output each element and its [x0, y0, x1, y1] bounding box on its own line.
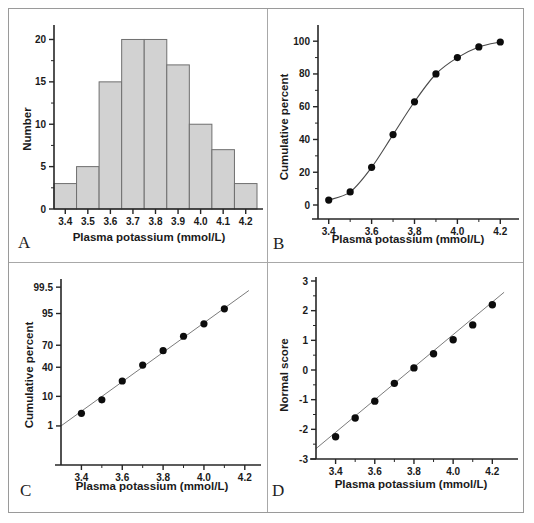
- y-tick-label: -3: [299, 454, 308, 465]
- x-tick-label: 4.2: [238, 472, 252, 483]
- bar: [54, 184, 77, 209]
- panel-d-svg: -3-2-101233.43.63.84.04.2 Normal score P…: [268, 263, 523, 512]
- y-tick-label: 40: [299, 134, 311, 145]
- panel-d-xlabel: Plasma potassium (mmol/L): [335, 478, 488, 490]
- panel-c-fitline: [61, 291, 249, 426]
- x-tick-label: 4.2: [493, 226, 507, 237]
- data-point: [391, 380, 398, 387]
- data-point: [351, 414, 358, 421]
- data-point: [497, 38, 504, 45]
- y-tick-label: 3: [302, 276, 308, 287]
- panel-letter-d: D: [272, 482, 284, 499]
- panel-c-xlabel: Plasma potassium (mmol/L): [76, 480, 229, 492]
- panel-b-xlabel: Plasma potassium (mmol/L): [332, 233, 485, 245]
- bar: [99, 82, 122, 209]
- data-point: [371, 397, 378, 404]
- bar: [234, 184, 257, 209]
- bar: [122, 39, 145, 209]
- y-tick-label: 20: [35, 34, 47, 45]
- panel-c-probability-plot: 11040709599.53.43.63.84.04.2 Cumulative …: [9, 263, 267, 512]
- x-tick-label: 4.2: [239, 216, 253, 227]
- panel-a-svg: 051015203.43.53.63.73.83.94.04.14.2 Numb…: [9, 9, 267, 262]
- bar: [189, 124, 212, 209]
- panel-b-curve: [329, 42, 501, 200]
- y-tick-label: 95: [42, 308, 54, 319]
- panel-d-plot-area: -3-2-101233.43.63.84.04.2: [299, 276, 518, 478]
- data-point: [78, 410, 85, 417]
- panel-letter-c: C: [20, 482, 31, 499]
- y-tick-label: -1: [299, 394, 308, 405]
- data-point: [325, 196, 332, 203]
- x-tick-label: 3.8: [149, 216, 163, 227]
- y-tick-label: 0: [304, 200, 310, 211]
- bar: [77, 167, 100, 209]
- panel-b-cumulative-curve: 0204060801003.43.63.84.04.2 Cumulative p…: [268, 9, 523, 262]
- data-point: [449, 336, 456, 343]
- bar: [167, 65, 190, 209]
- x-tick-label: 3.4: [58, 216, 72, 227]
- y-tick-label: 0: [302, 365, 308, 376]
- y-tick-label: 60: [299, 101, 311, 112]
- data-point: [200, 320, 207, 327]
- y-tick-label: 70: [42, 340, 54, 351]
- panel-a-xlabel: Plasma potassium (mmol/L): [73, 231, 226, 243]
- data-point: [160, 347, 167, 354]
- y-tick-label: 2: [302, 305, 308, 316]
- x-tick-label: 4.0: [194, 216, 208, 227]
- x-tick-label: 3.4: [329, 466, 343, 477]
- data-point: [98, 396, 105, 403]
- data-point: [221, 305, 228, 312]
- bar: [212, 150, 235, 209]
- data-point: [180, 333, 187, 340]
- data-point: [454, 54, 461, 61]
- x-tick-label: 3.8: [407, 466, 421, 477]
- panel-b-svg: 0204060801003.43.63.84.04.2 Cumulative p…: [268, 9, 523, 262]
- panel-d-fitline: [316, 292, 504, 448]
- data-point: [347, 188, 354, 195]
- y-tick-label: 5: [40, 161, 46, 172]
- data-point: [119, 377, 126, 384]
- panel-c-svg: 11040709599.53.43.63.84.04.2 Cumulative …: [9, 263, 267, 512]
- data-point: [139, 361, 146, 368]
- panel-letter-a: A: [18, 234, 30, 251]
- y-tick-label: 1: [47, 420, 53, 431]
- panel-a-histogram: 051015203.43.53.63.73.83.94.04.14.2 Numb…: [9, 9, 267, 262]
- x-tick-label: 4.0: [446, 466, 460, 477]
- data-point: [475, 43, 482, 50]
- y-tick-label: 100: [293, 36, 310, 47]
- figure-container: 051015203.43.53.63.73.83.94.04.14.2 Numb…: [0, 0, 534, 523]
- panel-d-ylabel: Normal score: [278, 338, 290, 412]
- y-tick-label: 10: [42, 391, 54, 402]
- x-tick-label: 4.2: [485, 466, 499, 477]
- data-point: [469, 321, 476, 328]
- y-tick-label: 40: [42, 362, 54, 373]
- x-tick-label: 3.6: [368, 466, 382, 477]
- y-tick-label: 1: [302, 335, 308, 346]
- panel-a-ylabel: Number: [21, 107, 33, 151]
- y-tick-label: 20: [299, 167, 311, 178]
- panel-c-ylabel: Cumulative percent: [23, 321, 35, 428]
- data-point: [430, 350, 437, 357]
- panel-a-plot-area: 051015203.43.53.63.73.83.94.04.14.2: [35, 25, 263, 227]
- data-point: [411, 98, 418, 105]
- y-tick-label: 15: [35, 76, 47, 87]
- panel-b-ylabel: Cumulative percent: [278, 73, 290, 180]
- data-point: [368, 164, 375, 171]
- data-point: [410, 364, 417, 371]
- x-tick-label: 4.1: [216, 216, 230, 227]
- data-point: [332, 433, 339, 440]
- y-tick-label: 99.5: [34, 282, 54, 293]
- data-point: [432, 70, 439, 77]
- panel-c-plot-area: 11040709599.53.43.63.84.04.2: [34, 279, 261, 483]
- x-tick-label: 3.9: [171, 216, 185, 227]
- data-point: [489, 301, 496, 308]
- x-tick-label: 3.6: [103, 216, 117, 227]
- panel-letter-b: B: [273, 235, 284, 252]
- y-tick-label: 0: [40, 204, 46, 215]
- bar: [144, 39, 167, 209]
- y-tick-label: 10: [35, 119, 47, 130]
- panel-d-normal-score-plot: -3-2-101233.43.63.84.04.2 Normal score P…: [268, 263, 523, 512]
- y-tick-label: -2: [299, 424, 308, 435]
- x-tick-label: 3.5: [81, 216, 95, 227]
- panel-b-plot-area: 0204060801003.43.63.84.04.2: [293, 25, 519, 237]
